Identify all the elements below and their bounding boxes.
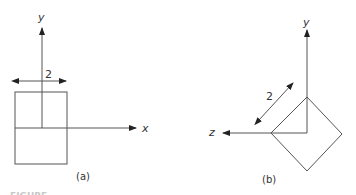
caption-a: (a)	[76, 171, 90, 182]
y-axis-label-a: y	[37, 11, 45, 24]
x-axis-label-a: x	[141, 122, 149, 135]
dimension-label-a: 2	[45, 68, 52, 81]
dimension-arrow-b	[259, 83, 293, 120]
y-axis-label-b: y	[302, 16, 310, 29]
figure-a: y x 2 (a)	[15, 11, 149, 182]
figure-b: y z 2 (b)	[208, 16, 342, 185]
caption-b: (b)	[262, 174, 276, 185]
figure-caption-partial: FIGURE	[10, 191, 47, 195]
z-axis-label-b: z	[208, 126, 215, 139]
dimension-label-b: 2	[266, 90, 273, 103]
figure-canvas: y x 2 (a) y z 2 (b) FIGURE	[0, 0, 356, 195]
